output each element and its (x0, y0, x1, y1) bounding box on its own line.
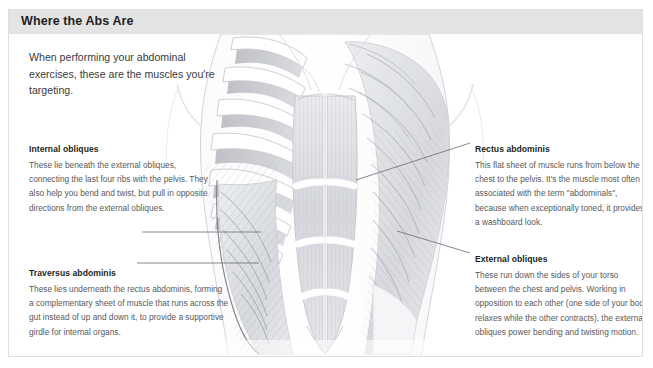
label-heading-traversus-abdominis: Traversus abdominis (29, 268, 229, 278)
figure-panel: Where the Abs Are (8, 9, 643, 357)
label-heading-internal-obliques: Internal obliques (29, 144, 215, 154)
intro-text-block: When performing your abdominal exercises… (29, 49, 234, 99)
label-heading-rectus-abdominis: Rectus abdominis (475, 144, 643, 154)
label-block-internal-obliques: Internal obliques These lie beneath the … (29, 144, 215, 215)
label-block-traversus-abdominis: Traversus abdominis These lies underneat… (29, 268, 229, 339)
label-body-external-obliques: These run down the sides of your torso b… (475, 268, 643, 339)
label-body-rectus-abdominis: This flat sheet of muscle runs from belo… (475, 158, 643, 229)
label-heading-external-obliques: External obliques (475, 254, 643, 264)
label-block-rectus-abdominis: Rectus abdominis This flat sheet of musc… (475, 144, 643, 229)
intro-paragraph: When performing your abdominal exercises… (29, 49, 234, 99)
label-body-traversus-abdominis: These lies underneath the rectus abdomin… (29, 282, 229, 339)
page-title: Where the Abs Are (21, 14, 134, 28)
label-block-external-obliques: External obliques These run down the sid… (475, 254, 643, 339)
panel-header: Where the Abs Are (9, 10, 642, 34)
label-body-internal-obliques: These lie beneath the external obliques,… (29, 158, 215, 215)
